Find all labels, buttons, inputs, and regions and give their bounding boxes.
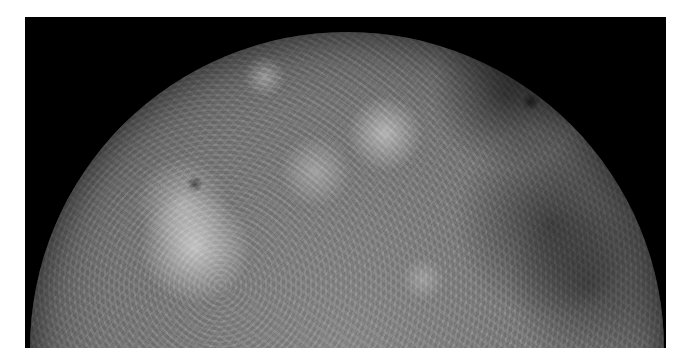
crater-texture — [30, 32, 664, 348]
photograph-frame — [25, 17, 666, 348]
planet-surface — [30, 32, 664, 348]
